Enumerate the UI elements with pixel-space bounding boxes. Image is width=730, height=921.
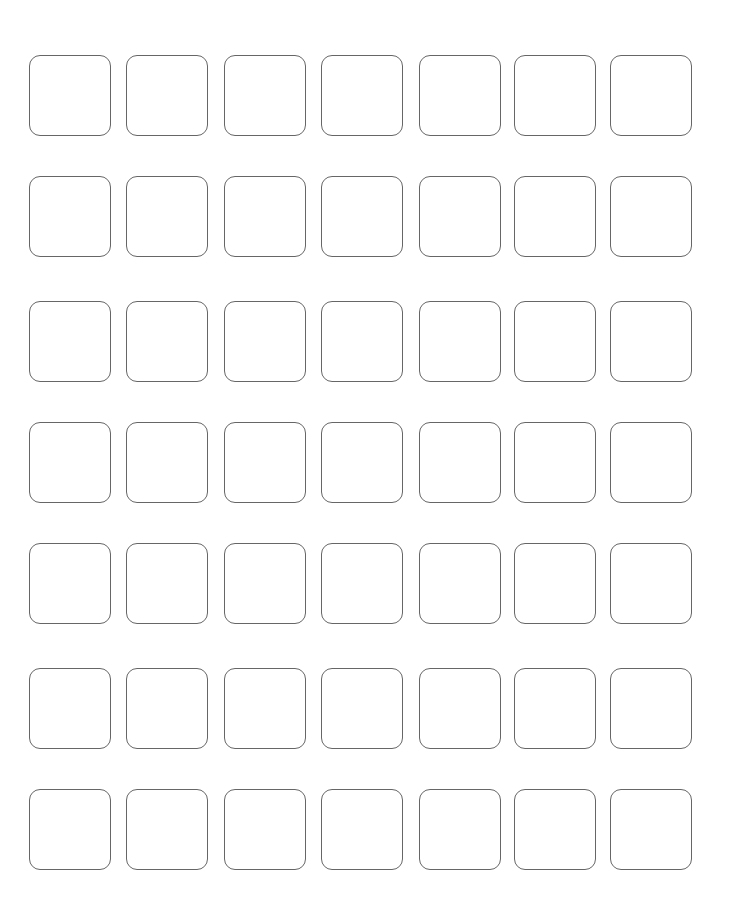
grid-cell[interactable] xyxy=(514,543,596,624)
grid-cell[interactable] xyxy=(29,543,111,624)
grid-row xyxy=(0,301,730,382)
grid-cell-label xyxy=(30,544,110,623)
grid-cell[interactable] xyxy=(419,543,501,624)
grid-cell[interactable] xyxy=(29,789,111,870)
grid-cell-label xyxy=(30,177,110,256)
grid-cell-label xyxy=(30,302,110,381)
grid-cell[interactable] xyxy=(321,543,403,624)
grid-cell[interactable] xyxy=(419,301,501,382)
grid-cell[interactable] xyxy=(514,176,596,257)
grid-cell-label xyxy=(30,790,110,869)
grid-cell-label xyxy=(322,669,402,748)
grid-cell[interactable] xyxy=(419,422,501,503)
grid-cell[interactable] xyxy=(610,543,692,624)
grid-cell[interactable] xyxy=(321,176,403,257)
grid-cell[interactable] xyxy=(126,668,208,749)
grid-cell[interactable] xyxy=(321,55,403,136)
grid-cell[interactable] xyxy=(126,543,208,624)
grid-row xyxy=(0,55,730,136)
grid-cell-label xyxy=(515,790,595,869)
grid-cell[interactable] xyxy=(321,301,403,382)
grid-cell[interactable] xyxy=(610,55,692,136)
grid-cell-label xyxy=(127,423,207,502)
grid-row xyxy=(0,176,730,257)
grid-cell-label xyxy=(127,56,207,135)
grid-row xyxy=(0,789,730,870)
grid-cell-label xyxy=(225,56,305,135)
grid-cell[interactable] xyxy=(514,668,596,749)
grid-row xyxy=(0,668,730,749)
grid-cell[interactable] xyxy=(419,55,501,136)
grid-cell[interactable] xyxy=(224,55,306,136)
grid-cell-label xyxy=(420,177,500,256)
grid-cell-label xyxy=(611,544,691,623)
grid-cell-label xyxy=(515,177,595,256)
grid-cell[interactable] xyxy=(224,422,306,503)
grid-cell-label xyxy=(420,669,500,748)
grid-cell-label xyxy=(611,56,691,135)
grid-cell[interactable] xyxy=(514,422,596,503)
grid-cell-label xyxy=(611,790,691,869)
grid-cell[interactable] xyxy=(514,55,596,136)
grid-cell[interactable] xyxy=(224,301,306,382)
grid-cell-label xyxy=(322,302,402,381)
grid-cell[interactable] xyxy=(126,301,208,382)
grid-cell[interactable] xyxy=(29,176,111,257)
grid-cell-label xyxy=(127,669,207,748)
grid-cell[interactable] xyxy=(514,789,596,870)
grid-cell-label xyxy=(30,423,110,502)
grid-cell-label xyxy=(515,56,595,135)
grid-cell[interactable] xyxy=(126,55,208,136)
grid-sheet xyxy=(0,0,730,921)
grid-cell-label xyxy=(127,790,207,869)
grid-row xyxy=(0,422,730,503)
grid-cell-label xyxy=(420,302,500,381)
grid-cell[interactable] xyxy=(419,668,501,749)
grid-cell[interactable] xyxy=(610,422,692,503)
grid-cell-label xyxy=(611,423,691,502)
grid-cell[interactable] xyxy=(224,176,306,257)
grid-cell[interactable] xyxy=(321,422,403,503)
grid-cell-label xyxy=(420,423,500,502)
grid-cell[interactable] xyxy=(419,176,501,257)
grid-cell-label xyxy=(127,177,207,256)
grid-cell[interactable] xyxy=(514,301,596,382)
grid-cell-label xyxy=(420,56,500,135)
grid-cell[interactable] xyxy=(126,176,208,257)
grid-cell-label xyxy=(322,544,402,623)
grid-cell[interactable] xyxy=(29,301,111,382)
grid-cell-label xyxy=(611,669,691,748)
grid-cell[interactable] xyxy=(610,668,692,749)
grid-cell-label xyxy=(225,669,305,748)
grid-cell[interactable] xyxy=(29,422,111,503)
grid-cell-label xyxy=(127,544,207,623)
grid-cell[interactable] xyxy=(610,789,692,870)
grid-cell[interactable] xyxy=(224,668,306,749)
grid-cell[interactable] xyxy=(224,543,306,624)
grid-cell-label xyxy=(515,669,595,748)
grid-cell-label xyxy=(420,790,500,869)
grid-cell[interactable] xyxy=(419,789,501,870)
grid-cell[interactable] xyxy=(126,789,208,870)
grid-cell-label xyxy=(515,423,595,502)
grid-cell-label xyxy=(30,669,110,748)
grid-cell[interactable] xyxy=(321,668,403,749)
grid-row xyxy=(0,543,730,624)
grid-cell[interactable] xyxy=(610,301,692,382)
grid-cell-label xyxy=(420,544,500,623)
grid-cell[interactable] xyxy=(610,176,692,257)
grid-cell-label xyxy=(30,56,110,135)
grid-cell-label xyxy=(611,177,691,256)
grid-cell[interactable] xyxy=(321,789,403,870)
grid-cell[interactable] xyxy=(29,668,111,749)
grid-cell-label xyxy=(515,302,595,381)
grid-cell[interactable] xyxy=(29,55,111,136)
grid-cell-label xyxy=(225,423,305,502)
grid-cell-label xyxy=(225,177,305,256)
grid-cell-label xyxy=(322,177,402,256)
grid-cell-label xyxy=(611,302,691,381)
grid-cell-label xyxy=(225,302,305,381)
grid-cell[interactable] xyxy=(224,789,306,870)
grid-cell[interactable] xyxy=(126,422,208,503)
grid-cell-label xyxy=(322,56,402,135)
